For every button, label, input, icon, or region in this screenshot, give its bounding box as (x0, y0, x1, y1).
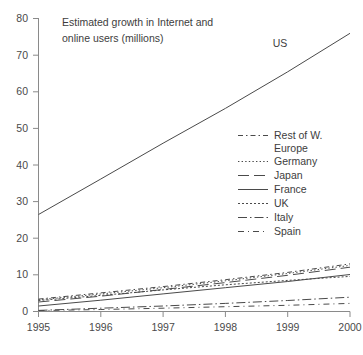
series-annotation-us: US (273, 37, 288, 49)
x-tick-label: 1999 (276, 321, 300, 333)
y-tick-label: 60 (16, 85, 28, 97)
x-tick-label: 1998 (214, 321, 238, 333)
y-tick-label: 20 (16, 232, 28, 244)
y-tick-label: 40 (16, 159, 28, 171)
y-tick-label: 10 (16, 268, 28, 280)
chart-title-line1: Estimated growth in Internet and (62, 16, 213, 28)
y-axis-tick-labels: 80 70 60 50 40 30 20 10 0 (16, 12, 28, 317)
legend-label-germany: Germany (274, 155, 318, 167)
legend-label-italy: Italy (274, 211, 294, 223)
y-tick-label: 80 (16, 12, 28, 24)
line-chart-canvas: 80 70 60 50 40 30 20 10 0 1995 1996 1997… (0, 0, 363, 355)
x-tick-label: 2000 (338, 321, 362, 333)
legend-label-spain: Spain (274, 225, 301, 237)
chart-background (0, 0, 363, 355)
y-tick-label: 0 (22, 305, 28, 317)
x-tick-label: 1997 (151, 321, 175, 333)
legend-label-france: France (274, 183, 307, 195)
chart-title-line2: online users (millions) (62, 32, 164, 44)
legend-label-uk: UK (274, 197, 289, 209)
x-tick-label: 1996 (89, 321, 113, 333)
chart-figure: 80 70 60 50 40 30 20 10 0 1995 1996 1997… (0, 0, 363, 355)
legend-label-japan: Japan (274, 169, 303, 181)
x-tick-label: 1995 (27, 321, 51, 333)
legend-label-rest-of-w-europe-line1: Rest of W. (274, 129, 322, 141)
legend-label-rest-of-w-europe-line2: Europe (274, 142, 308, 154)
y-tick-label: 30 (16, 195, 28, 207)
y-tick-label: 50 (16, 122, 28, 134)
y-tick-label: 70 (16, 49, 28, 61)
